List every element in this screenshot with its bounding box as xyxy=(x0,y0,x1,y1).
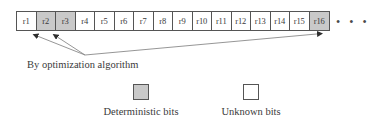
register-cell-r6[interactable]: r6 xyxy=(115,12,135,30)
arrow-to-r2 xyxy=(34,35,86,56)
legend-item-unknown: Unknown bits xyxy=(196,84,306,117)
register-cell-r14[interactable]: r14 xyxy=(271,12,291,30)
arrow-to-r3 xyxy=(54,35,86,56)
legend-label-deterministic: Deterministic bits xyxy=(86,106,196,117)
register-cell-r1[interactable]: r1 xyxy=(17,12,37,30)
register-cell-r13[interactable]: r13 xyxy=(251,12,271,30)
strip-continuation-ellipsis: • • • xyxy=(336,13,370,31)
register-strip: r1 r2 r3 r4 r5 r6 r7 r8 r9 r10 r11 r12 r… xyxy=(16,11,330,31)
legend-item-deterministic: Deterministic bits xyxy=(86,84,196,117)
register-cell-label: r10 xyxy=(196,17,207,26)
deterministic-swatch-icon xyxy=(133,84,149,100)
register-cell-label: r5 xyxy=(101,17,108,26)
register-cell-label: r4 xyxy=(81,17,88,26)
register-cell-label: r16 xyxy=(314,17,325,26)
register-cell-label: r15 xyxy=(294,17,305,26)
register-cell-label: r9 xyxy=(179,17,186,26)
register-cell-r15[interactable]: r15 xyxy=(290,12,310,30)
register-cell-r11[interactable]: r11 xyxy=(212,12,232,30)
register-cell-r5[interactable]: r5 xyxy=(95,12,115,30)
register-cell-r8[interactable]: r8 xyxy=(154,12,174,30)
register-cell-r4[interactable]: r4 xyxy=(76,12,96,30)
register-cell-r16[interactable]: r16 xyxy=(310,12,330,30)
register-cell-r10[interactable]: r10 xyxy=(193,12,213,30)
register-cell-label: r1 xyxy=(23,17,30,26)
register-cell-label: r11 xyxy=(216,17,227,26)
register-cell-label: r8 xyxy=(159,17,166,26)
register-cell-r3[interactable]: r3 xyxy=(56,12,76,30)
optimization-algorithm-caption: By optimization algorithm xyxy=(27,59,138,70)
legend-label-unknown: Unknown bits xyxy=(196,106,306,117)
register-cell-label: r2 xyxy=(42,17,49,26)
register-cell-label: r14 xyxy=(274,17,285,26)
unknown-swatch-icon xyxy=(243,84,259,100)
register-cell-r12[interactable]: r12 xyxy=(232,12,252,30)
register-cell-r2[interactable]: r2 xyxy=(37,12,57,30)
register-cell-label: r6 xyxy=(120,17,127,26)
register-cell-r7[interactable]: r7 xyxy=(134,12,154,30)
register-cell-label: r12 xyxy=(235,17,246,26)
register-cell-r9[interactable]: r9 xyxy=(173,12,193,30)
arrow-to-r16 xyxy=(85,34,322,56)
register-cell-label: r3 xyxy=(62,17,69,26)
register-cell-label: r7 xyxy=(140,17,147,26)
register-cell-label: r13 xyxy=(255,17,266,26)
